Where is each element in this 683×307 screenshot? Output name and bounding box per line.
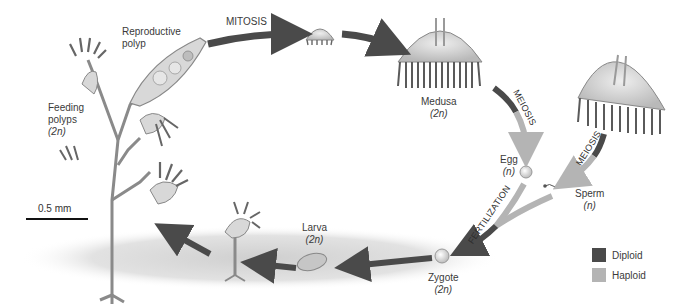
egg-icon xyxy=(520,166,532,178)
label-reproductive-polyp: Reproductive polyp xyxy=(122,26,181,50)
medusa-growth-arrow[interactable] xyxy=(342,34,392,46)
larva-to-polyp-arrow[interactable] xyxy=(258,264,296,268)
male-medusa-icon xyxy=(578,55,665,135)
label-larva: Larva (2n) xyxy=(302,222,327,246)
sperm-icon xyxy=(545,185,569,188)
medusa-icon xyxy=(398,18,482,88)
label-egg: Egg (n) xyxy=(500,154,518,178)
haploid-swatch xyxy=(592,268,606,282)
label-zygote: Zygote (2n) xyxy=(428,272,459,296)
label-medusa: Medusa (2n) xyxy=(421,96,457,120)
label-feeding-polyps: Feeding polyps (2n) xyxy=(48,102,84,138)
mitosis-arrow[interactable] xyxy=(208,34,292,44)
diploid-swatch xyxy=(592,248,606,262)
legend-item-haploid: Haploid xyxy=(592,265,646,285)
label-sperm: Sperm (n) xyxy=(575,188,604,212)
label-mitosis: MITOSIS xyxy=(226,16,267,28)
obelia-life-cycle-diagram: Reproductive polyp Feeding polyps (2n) M… xyxy=(0,0,683,307)
young-medusa-icon xyxy=(306,29,334,45)
legend-item-diploid: Diploid xyxy=(592,245,646,265)
zygote-icon xyxy=(435,249,449,263)
scale-bar-label: 0.5 mm xyxy=(38,203,71,214)
scale-bar xyxy=(26,218,88,220)
legend: Diploid Haploid xyxy=(592,245,646,285)
